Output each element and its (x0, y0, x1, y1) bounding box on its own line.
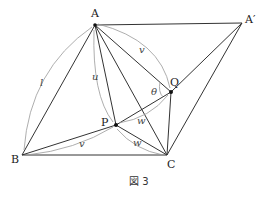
label-w-pq: w (137, 115, 146, 126)
label-v-top: v (139, 44, 145, 55)
label-a-prime: A′ (244, 13, 256, 26)
figure-caption: 図 3 (129, 176, 149, 187)
label-theta: θ (151, 86, 157, 97)
segment-a-q (95, 25, 171, 92)
label-v-bottom: v (79, 138, 85, 149)
label-p: P (101, 116, 109, 129)
segment-a2-q (171, 23, 242, 92)
arc-l (24, 27, 92, 150)
segment-a2-c (167, 23, 242, 155)
label-l: l (40, 77, 43, 88)
label-a: A (90, 7, 100, 20)
segment-a-a2 (95, 23, 242, 25)
point-q-dot (169, 90, 173, 94)
arc-v-top (98, 24, 170, 88)
point-p-dot (114, 123, 118, 127)
point-a-dot (93, 23, 97, 27)
segment-q-c (167, 92, 171, 155)
label-q: Q (170, 76, 179, 89)
label-u: u (92, 71, 98, 82)
label-w-pc: w (133, 137, 142, 148)
label-c: C (167, 158, 175, 171)
label-b: B (11, 153, 19, 166)
geometry-figure: A A′ B C P Q l u v v w w θ 図 3 (0, 0, 272, 198)
arc-v-bottom (27, 127, 113, 155)
